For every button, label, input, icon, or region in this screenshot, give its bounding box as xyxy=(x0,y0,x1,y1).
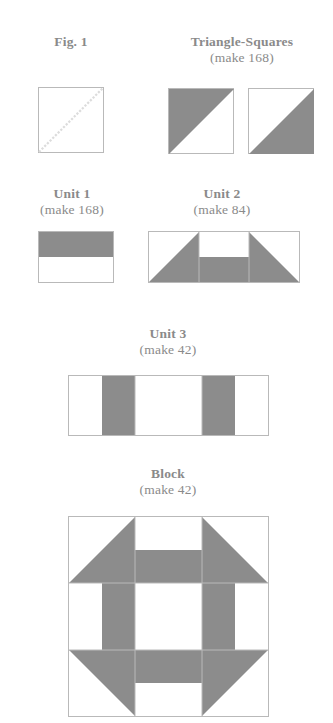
caption-subtitle: (make 168) xyxy=(163,50,321,66)
unit-1-svg xyxy=(38,231,114,283)
unit-2-svg xyxy=(148,231,300,283)
caption-title: Block xyxy=(104,466,232,482)
caption-unit-3: Unit 3 (make 42) xyxy=(104,326,232,358)
unit-3-right-gray-bar xyxy=(202,376,235,435)
caption-subtitle: (make 42) xyxy=(104,342,232,358)
block-middle-right-gray-bar xyxy=(202,583,235,650)
unit-3-outline xyxy=(69,376,269,436)
caption-subtitle: (make 42) xyxy=(104,482,232,498)
unit-3-left-gray-bar xyxy=(102,376,135,435)
fig-1-svg xyxy=(38,87,104,153)
figure-fig-1 xyxy=(38,87,104,153)
triangle-square-left xyxy=(169,89,235,155)
caption-subtitle: (make 84) xyxy=(158,202,286,218)
caption-title: Triangle-Squares xyxy=(163,34,321,50)
figure-unit-3 xyxy=(68,375,269,436)
caption-unit-2: Unit 2 (make 84) xyxy=(158,186,286,218)
block-outline xyxy=(69,517,269,717)
unit-3-svg xyxy=(68,375,269,436)
block-bottom-center-gray-bar xyxy=(135,650,202,683)
block-middle-left-gray-bar xyxy=(102,583,135,650)
figure-unit-1 xyxy=(38,231,114,283)
caption-title: Fig. 1 xyxy=(12,34,130,50)
caption-triangle-squares: Triangle-Squares (make 168) xyxy=(163,34,321,66)
caption-subtitle: (make 168) xyxy=(8,202,136,218)
figure-unit-2 xyxy=(148,231,300,283)
triangle-squares-svg xyxy=(168,88,314,156)
block-top-center-gray-bar xyxy=(135,550,202,583)
figure-triangle-squares xyxy=(168,88,314,156)
figure-block xyxy=(68,516,269,717)
caption-title: Unit 2 xyxy=(158,186,286,202)
caption-unit-1: Unit 1 (make 168) xyxy=(8,186,136,218)
unit-2-center-gray-bottom-half xyxy=(199,257,249,282)
caption-title: Unit 1 xyxy=(8,186,136,202)
unit-1-gray-top-half xyxy=(39,232,113,257)
block-svg xyxy=(68,516,269,717)
caption-fig-1: Fig. 1 xyxy=(12,34,130,50)
caption-block: Block (make 42) xyxy=(104,466,232,498)
triangle-square-right xyxy=(249,89,315,155)
caption-title: Unit 3 xyxy=(104,326,232,342)
